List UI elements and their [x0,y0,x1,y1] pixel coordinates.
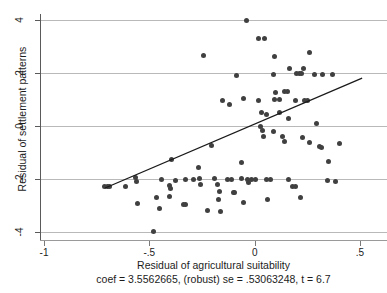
x-tick [255,241,256,246]
scatter-point [314,121,319,126]
gridline-y [40,126,387,127]
scatter-point [286,177,291,182]
y-tick-label: 0 [15,115,25,137]
scatter-point [307,50,312,55]
scatter-point [272,54,277,59]
scatter-point [123,184,128,189]
scatter-point [217,189,222,194]
scatter-point [259,110,264,115]
scatter-point [287,66,292,71]
regression-scatter-figure: Residual of settlement patterns Residual… [0,0,387,293]
scatter-point [154,195,159,200]
scatter-point [215,182,220,187]
scatter-point [218,209,223,214]
scatter-point [157,206,162,211]
x-tick [149,241,150,246]
scatter-point [337,141,342,146]
scatter-point [256,36,261,41]
gridline-y [40,20,387,21]
scatter-point [134,179,139,184]
scatter-point [227,102,232,107]
scatter-point [216,197,221,202]
scatter-point [312,72,317,77]
scatter-point [326,159,331,164]
plot-area [40,14,387,240]
x-axis-title: Residual of agricultural suitability [40,259,387,271]
scatter-point [333,179,338,184]
scatter-point [298,195,303,200]
scatter-point [209,143,214,148]
scatter-point [307,140,312,145]
y-axis-line [40,14,41,241]
regression-stats-caption: coef = 3.5562665, (robust) se = .5306324… [40,273,387,285]
gridline-y [40,232,387,233]
x-axis-line [40,240,387,241]
scatter-point [191,177,196,182]
scatter-point [271,72,276,77]
scatter-point [239,160,244,165]
scatter-point [261,134,266,139]
scatter-point [201,53,206,58]
y-tick-label: -2 [15,168,25,190]
scatter-point [196,165,201,170]
x-tick-label: -.5 [134,247,164,258]
scatter-point [234,73,239,78]
scatter-point [260,128,265,133]
scatter-point [268,177,273,182]
scatter-point [159,177,164,182]
scatter-point [168,186,173,191]
scatter-point [169,157,174,162]
scatter-point [300,135,305,140]
scatter-point [299,71,304,76]
scatter-point [167,194,172,199]
x-tick [360,241,361,246]
scatter-point [253,177,258,182]
scatter-point [282,139,287,144]
x-tick [44,241,45,246]
y-tick-label: -4 [15,221,25,243]
scatter-point [271,129,276,134]
x-tick-label: .5 [345,247,375,258]
scatter-point [239,176,244,181]
y-tick [35,179,40,180]
scatter-point [265,197,270,202]
scatter-point [212,176,217,181]
scatter-point [198,182,203,187]
scatter-point [244,18,249,23]
scatter-point [286,116,291,121]
y-tick [35,126,40,127]
scatter-point [320,72,325,77]
scatter-point [249,177,254,182]
scatter-point [151,229,156,234]
scatter-point [183,177,188,182]
scatter-point [277,110,282,115]
scatter-point [319,145,324,150]
y-tick [35,232,40,233]
scatter-point [273,90,278,95]
y-tick-label: 4 [15,9,25,31]
scatter-point [232,190,237,195]
scatter-point [305,98,310,103]
scatter-point [293,184,298,189]
scatter-point [229,177,234,182]
scatter-point [325,178,330,183]
scatter-point [277,97,282,102]
scatter-point [285,89,290,94]
y-tick [35,73,40,74]
scatter-point [256,98,261,103]
scatter-point [173,178,178,183]
y-tick-label: 2 [15,62,25,84]
scatter-point [205,208,210,213]
scatter-point [220,98,225,103]
scatter-point [293,98,298,103]
x-tick-label: 0 [240,247,270,258]
x-tick-label: -1 [29,247,59,258]
scatter-point [135,201,140,206]
scatter-point [262,36,267,41]
y-tick [35,20,40,21]
scatter-point [241,96,246,101]
scatter-point [197,176,202,181]
scatter-point [107,184,112,189]
scatter-point [330,72,335,77]
scatter-point [241,200,246,205]
